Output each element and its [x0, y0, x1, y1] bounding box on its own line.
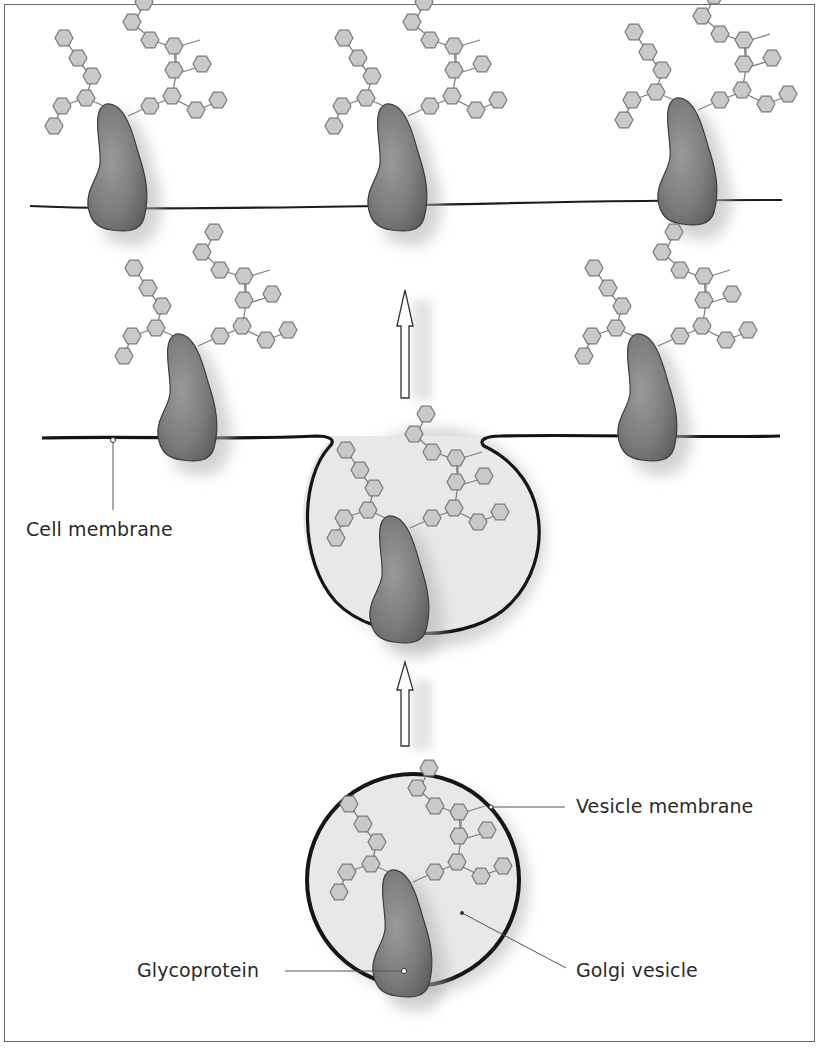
up-arrow-lower: [397, 662, 432, 750]
fusion-stage: [42, 224, 780, 658]
cell-membrane-label: Cell membrane: [26, 518, 173, 540]
glycoprotein-label: Glycoprotein: [137, 959, 259, 981]
up-arrow-upper: [397, 290, 432, 400]
golgi-vesicle-stage: [285, 760, 566, 1012]
surface-stage: [30, 0, 797, 246]
vesicle-membrane-label: Vesicle membrane: [576, 795, 753, 817]
golgi-vesicle-label: Golgi vesicle: [576, 959, 698, 981]
glycoprotein-top-right: [615, 0, 797, 240]
glycoprotein-top-center: [325, 0, 507, 246]
